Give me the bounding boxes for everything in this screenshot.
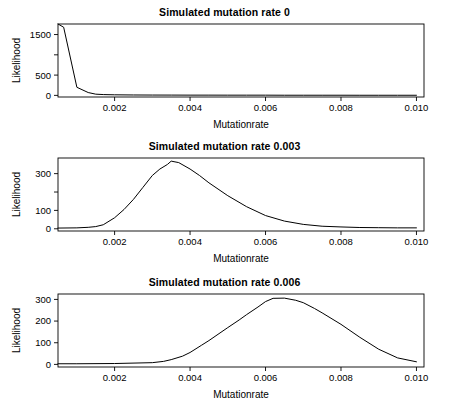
x-axis-title: Mutationrate (213, 389, 269, 400)
chart-panel-mutation-rate-0: Simulated mutation rate 0 0.0020.0040.00… (0, 2, 449, 135)
y-axis-title: Likelihood (11, 308, 22, 353)
x-tick-label: 0.010 (405, 102, 429, 113)
x-tick-label: 0.010 (405, 236, 429, 247)
plot-box (58, 294, 424, 367)
x-axis-title: Mutationrate (213, 253, 269, 264)
y-tick-label: 100 (35, 205, 51, 216)
chart-panel-mutation-rate-0006: Simulated mutation rate 0.006 0.0020.004… (0, 272, 449, 405)
x-tick-label: 0.010 (405, 372, 429, 383)
figure-three-likelihood-panels: Simulated mutation rate 0 0.0020.0040.00… (0, 0, 449, 409)
chart-panel-mutation-rate-0003: Simulated mutation rate 0.003 0.0020.004… (0, 136, 449, 269)
y-tick-label: 200 (35, 315, 51, 326)
y-axis-title: Likelihood (11, 38, 22, 83)
plot-area: 0.0020.0040.0060.0080.01005001500Likelih… (0, 2, 449, 135)
x-axis-title: Mutationrate (213, 119, 269, 130)
x-tick-label: 0.008 (329, 102, 353, 113)
plot-box (58, 24, 424, 97)
x-tick-label: 0.006 (254, 102, 278, 113)
x-tick-label: 0.002 (103, 236, 127, 247)
y-tick-label: 0 (46, 359, 51, 370)
plot-area: 0.0020.0040.0060.0080.0100100200300Likel… (0, 272, 449, 405)
y-axis-title: Likelihood (11, 172, 22, 217)
x-tick-label: 0.006 (254, 372, 278, 383)
x-tick-label: 0.004 (178, 236, 202, 247)
x-tick-label: 0.008 (329, 236, 353, 247)
x-tick-label: 0.002 (103, 102, 127, 113)
y-tick-label: 1500 (30, 29, 51, 40)
y-tick-label: 300 (35, 168, 51, 179)
x-tick-label: 0.006 (254, 236, 278, 247)
plot-area: 0.0020.0040.0060.0080.0100100300Likeliho… (0, 136, 449, 269)
x-tick-label: 0.004 (178, 372, 202, 383)
x-tick-label: 0.008 (329, 372, 353, 383)
data-line-series (58, 24, 416, 95)
plot-box (58, 158, 424, 231)
x-tick-label: 0.002 (103, 372, 127, 383)
y-tick-label: 0 (46, 223, 51, 234)
x-tick-label: 0.004 (178, 102, 202, 113)
y-tick-label: 500 (35, 70, 51, 81)
data-line-series (58, 161, 416, 228)
y-tick-label: 100 (35, 337, 51, 348)
y-tick-label: 0 (46, 90, 51, 101)
y-tick-label: 300 (35, 294, 51, 305)
data-line-series (58, 298, 416, 364)
